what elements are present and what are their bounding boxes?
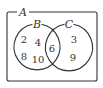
element-b-only: 8 <box>21 51 27 62</box>
element-c-only: 3 <box>71 34 77 45</box>
element-c-only: 9 <box>70 52 76 63</box>
element-b-only: 2 <box>21 34 27 45</box>
set-c-label: C <box>65 18 74 31</box>
universal-set-label: A <box>18 6 27 19</box>
venn-diagram: A B C 2 4 8 10 6 3 9 <box>0 0 103 88</box>
element-b-only: 10 <box>32 54 45 65</box>
element-b-only: 4 <box>35 37 41 48</box>
element-intersection: 6 <box>49 43 55 54</box>
set-b-label: B <box>32 18 41 31</box>
